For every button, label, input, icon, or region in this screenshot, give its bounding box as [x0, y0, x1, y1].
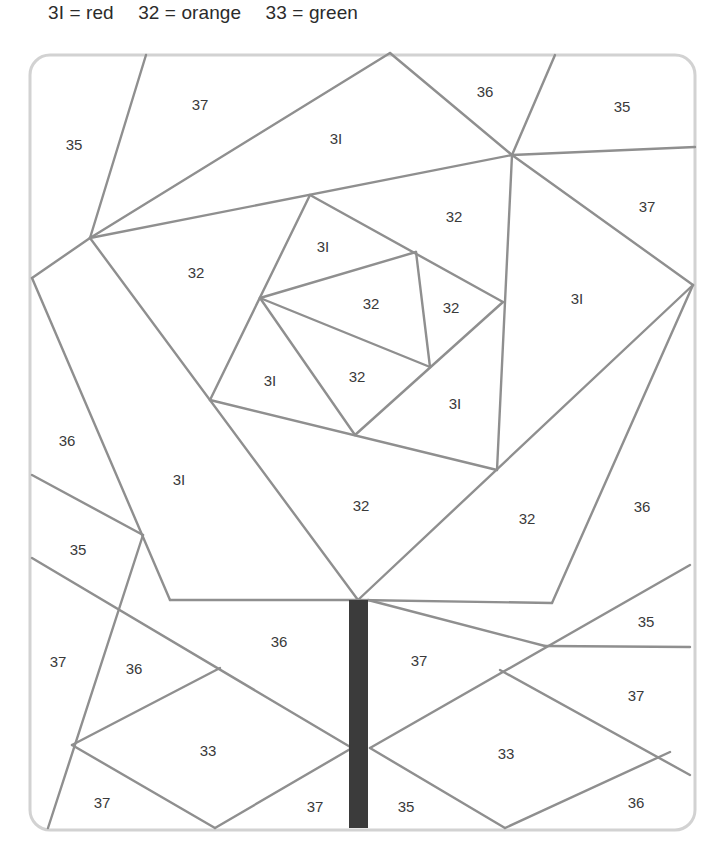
outline-segment [358, 600, 552, 603]
outline-segment [310, 195, 503, 302]
region-r20-number[interactable]: 36 [634, 498, 651, 515]
region-r30-number[interactable]: 37 [94, 794, 111, 811]
region-r24-number[interactable]: 37 [50, 653, 67, 670]
region-r27-number[interactable]: 37 [628, 687, 645, 704]
region-r21-number[interactable]: 35 [70, 541, 87, 558]
outline-segment [355, 302, 503, 435]
outline-segment [512, 147, 695, 155]
region-r15-number[interactable]: 3I [449, 395, 462, 412]
outline-segment [32, 278, 170, 600]
color-by-number-sheet: 35373I363537323I3232323I3I323I363I323236… [0, 0, 718, 851]
outline-segment [72, 668, 220, 745]
outline-segment [260, 298, 430, 367]
outline-segment [545, 646, 690, 647]
region-r31-number[interactable]: 37 [307, 798, 324, 815]
region-r11-number[interactable]: 32 [443, 299, 460, 316]
region-r28-number[interactable]: 33 [200, 742, 217, 759]
outline-segment [72, 745, 215, 828]
region-r3-number[interactable]: 3I [330, 130, 343, 147]
region-r23-number[interactable]: 36 [271, 633, 288, 650]
outline-segment [512, 55, 555, 155]
outline-segment [512, 155, 693, 285]
outline-segment [90, 238, 358, 600]
region-r10-number[interactable]: 32 [363, 295, 380, 312]
outline-segment [32, 238, 90, 278]
region-r4-number[interactable]: 36 [477, 83, 494, 100]
region-r29-number[interactable]: 33 [498, 745, 515, 762]
outline-segment [90, 53, 390, 238]
region-r9-number[interactable]: 32 [188, 264, 205, 281]
outline-segment [90, 55, 146, 238]
outline-segment [48, 535, 143, 828]
outline-segment [370, 748, 505, 828]
region-r5-number[interactable]: 35 [614, 98, 631, 115]
region-r18-number[interactable]: 32 [353, 497, 370, 514]
outline-segment [390, 53, 512, 155]
outline-segment [416, 252, 430, 367]
rose-stem [349, 600, 368, 828]
outline-segment [260, 252, 416, 298]
outline-segment [32, 558, 352, 748]
region-r2-number[interactable]: 37 [192, 96, 209, 113]
outline-segment [500, 670, 690, 775]
outline-segment [368, 600, 545, 646]
region-r12-number[interactable]: 3I [571, 290, 584, 307]
outline-segment [90, 155, 512, 238]
region-r19-number[interactable]: 32 [519, 510, 536, 527]
region-r16-number[interactable]: 36 [59, 432, 76, 449]
region-r1-number[interactable]: 35 [66, 136, 83, 153]
outline-segment [358, 285, 693, 600]
outline-segment [497, 155, 512, 470]
rose-line-art [0, 0, 718, 851]
region-r8-number[interactable]: 3I [317, 238, 330, 255]
region-r25-number[interactable]: 36 [126, 660, 143, 677]
region-r32-number[interactable]: 35 [398, 798, 415, 815]
outline-segment [505, 752, 670, 828]
outline-segment [215, 748, 352, 828]
outline-segment [32, 475, 143, 535]
region-r13-number[interactable]: 3I [264, 372, 277, 389]
region-r7-number[interactable]: 32 [446, 208, 463, 225]
region-r33-number[interactable]: 36 [628, 794, 645, 811]
region-r26-number[interactable]: 37 [411, 652, 428, 669]
region-r22-number[interactable]: 35 [638, 613, 655, 630]
region-r17-number[interactable]: 3I [173, 471, 186, 488]
outline-segment [552, 285, 693, 603]
region-r6-number[interactable]: 37 [639, 198, 656, 215]
region-r14-number[interactable]: 32 [349, 368, 366, 385]
